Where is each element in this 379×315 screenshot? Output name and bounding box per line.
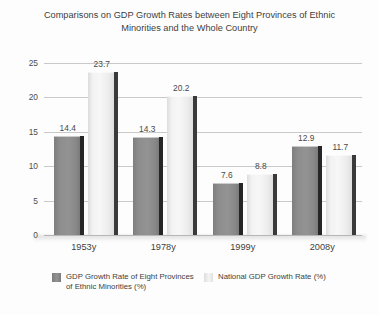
y-tick-label-25: 25 [29,58,38,68]
legend-item-ethnic-minorities: GDP Growth Rate of Eight Provinces of Et… [52,272,202,292]
bar-front-face [247,174,273,235]
bar-front-face [133,137,159,235]
bar-group-2008y: 12.911.7 [292,63,352,235]
legend-label-ethnic-minorities: GDP Growth Rate of Eight Provinces of Et… [66,272,194,292]
value-label-1953y-series-2: 23.7 [94,59,110,69]
legend-label-national: National GDP Growth Rate (%) [218,272,326,282]
value-label-1953y-series-1: 14.4 [60,123,76,133]
bar-front-face [88,72,114,235]
legend-swatch-ethnic-minorities [52,273,61,282]
value-label-2008y-series-2: 11.7 [332,142,348,152]
legend-label-line-2: of Ethnic Minorities (%) [66,282,146,291]
bar-top-cap [133,137,159,138]
y-tick-label-10: 10 [29,161,38,171]
bar-front-face [292,146,318,235]
value-label-1978y-series-1: 14.3 [139,124,155,134]
legend-label-line-1: GDP Growth Rate of Eight Provinces [66,272,194,281]
legend-item-national: National GDP Growth Rate (%) [204,272,369,282]
chart-title: Comparisons on GDP Growth Rates between … [18,9,361,35]
value-label-1999y-series-1: 7.6 [221,170,233,180]
bar-front-face [54,136,80,235]
bar-2008y-series-1[interactable] [292,146,318,235]
value-label-1978y-series-2: 20.2 [173,83,189,93]
value-label-2008y-series-1: 12.9 [298,133,314,143]
bar-2008y-series-2[interactable] [326,155,352,235]
bar-side-face [239,183,243,235]
bar-side-face [318,146,322,235]
legend-swatch-national [204,273,213,282]
bar-side-face [114,72,118,235]
chart-legend: GDP Growth Rate of Eight Provinces of Et… [44,272,364,302]
bar-top-cap [88,72,114,73]
bar-side-face [273,174,277,235]
bar-top-cap [292,146,318,147]
x-tick-label-1978y: 1978y [151,242,176,252]
x-tick-label-2008y: 2008y [310,242,335,252]
chart-title-line-2: Minorities and the Whole Country [18,22,361,35]
bar-1999y-series-2[interactable] [247,174,273,235]
bar-1953y-series-1[interactable] [54,136,80,235]
axis-floor-shadow [34,235,366,242]
bar-top-cap [326,155,352,156]
y-tick-label-5: 5 [33,196,38,206]
bar-top-cap [247,174,273,175]
bar-top-cap [213,183,239,184]
bar-group-1978y: 14.320.2 [133,63,193,235]
bar-1978y-series-1[interactable] [133,137,159,235]
bar-side-face [80,136,84,235]
bar-group-1999y: 7.68.8 [213,63,273,235]
bar-front-face [167,96,193,235]
bar-side-face [352,155,356,235]
x-tick-label-1999y: 1999y [230,242,255,252]
bar-1999y-series-1[interactable] [213,183,239,235]
bar-1953y-series-2[interactable] [88,72,114,235]
bar-side-face [159,137,163,235]
value-label-1999y-series-2: 8.8 [255,161,267,171]
bar-side-face [193,96,197,235]
y-tick-label-15: 15 [29,127,38,137]
chart-title-line-1: Comparisons on GDP Growth Rates between … [18,9,361,22]
x-tick-label-1953y: 1953y [71,242,96,252]
bar-group-1953y: 14.423.7 [54,63,114,235]
bar-top-cap [167,96,193,97]
bar-front-face [213,183,239,235]
gdp-growth-bar-chart: Comparisons on GDP Growth Rates between … [0,0,379,315]
bar-front-face [326,155,352,235]
y-tick-label-20: 20 [29,92,38,102]
bar-top-cap [54,136,80,137]
plot-area: 0510152025 14.423.714.320.27.68.812.911.… [44,63,362,235]
bar-1978y-series-2[interactable] [167,96,193,235]
